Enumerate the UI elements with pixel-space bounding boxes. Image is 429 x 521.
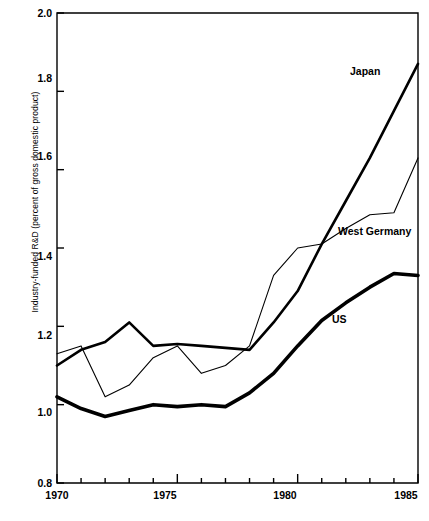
axis-ticks	[57, 13, 418, 483]
axis-frame	[57, 13, 418, 483]
plot-area	[0, 0, 429, 521]
data-lines	[57, 64, 418, 417]
chart-figure: Industry-funded R&D (percent of gross do…	[0, 0, 429, 521]
